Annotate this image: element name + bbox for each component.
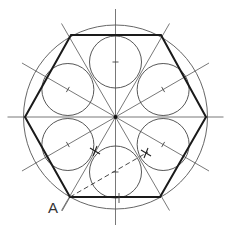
vertex-label-a: A	[48, 200, 58, 215]
center-point	[114, 115, 118, 119]
hexagon-construction-diagram	[0, 0, 226, 236]
dashed-construction-line	[70, 152, 148, 197]
